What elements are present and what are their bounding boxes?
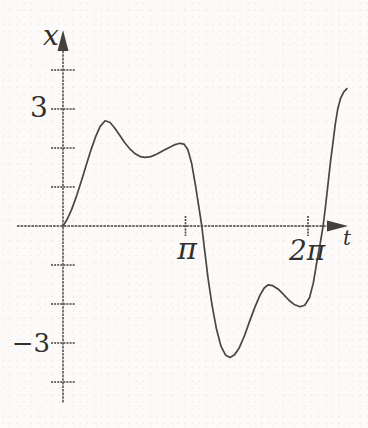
- solution-curve: [63, 89, 347, 358]
- x-tick-label-2pi: 2π: [289, 237, 325, 265]
- x-axis-arrowhead-icon: [58, 30, 69, 51]
- y-tick-label-neg3: −3: [12, 330, 50, 356]
- graph-figure: x t 3 −3 π 2π: [0, 0, 368, 428]
- y-tick-label-3: 3: [30, 94, 48, 122]
- y-axis-label: x: [43, 22, 59, 50]
- plot-canvas: [0, 0, 368, 428]
- t-axis-label: t: [343, 228, 351, 248]
- x-tick-label-pi: π: [177, 234, 197, 264]
